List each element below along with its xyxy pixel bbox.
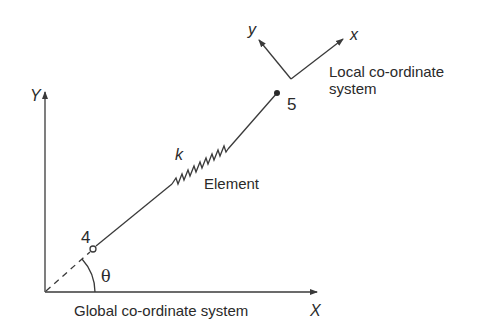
element-bar-lower xyxy=(96,184,172,246)
local-y-label: y xyxy=(247,21,257,38)
dashed-extension-line xyxy=(46,252,90,291)
element-bar-upper xyxy=(228,93,277,149)
spring-stiffness-label: k xyxy=(175,146,184,163)
global-x-label: X xyxy=(309,302,322,319)
local-caption-line1: Local co-ordinate xyxy=(329,63,444,80)
node-5-marker xyxy=(274,90,280,96)
local-caption-line2: system xyxy=(329,80,377,97)
local-x-label: x xyxy=(349,26,359,43)
global-y-label: Y xyxy=(30,87,42,104)
local-y-axis xyxy=(259,40,291,79)
node-5-label: 5 xyxy=(287,95,296,114)
node-4-marker xyxy=(90,246,96,252)
angle-label: θ xyxy=(101,267,111,286)
node-4-label: 4 xyxy=(81,228,90,247)
global-caption: Global co-ordinate system xyxy=(74,302,248,319)
coordinate-diagram: Y X Global co-ordinate system θ k Elemen… xyxy=(0,0,486,328)
element-label: Element xyxy=(204,175,260,192)
angle-arc xyxy=(82,259,95,292)
